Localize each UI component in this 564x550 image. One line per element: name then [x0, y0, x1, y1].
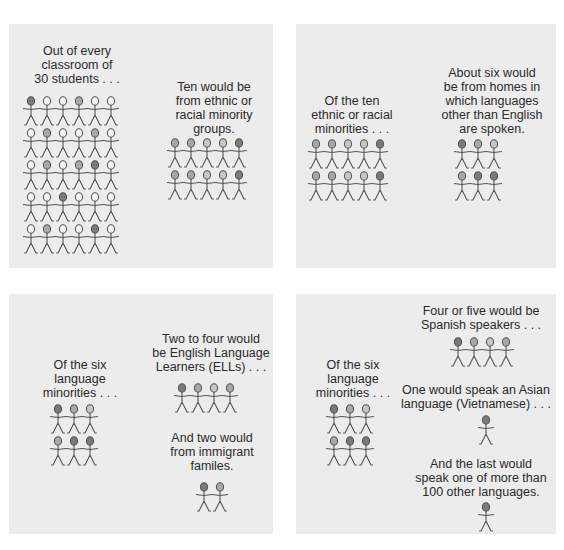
stick-figure-icon: [167, 170, 183, 201]
stick-figure-icon: [66, 404, 82, 435]
stick-figure-icon: [183, 138, 199, 169]
figure-group-30-students: [23, 96, 119, 255]
figure-group-6-language: [454, 139, 502, 202]
stick-figure-icon: [103, 128, 119, 159]
stick-figure-icon: [82, 404, 98, 435]
stick-figure-icon: [450, 337, 466, 368]
stick-figure-icon: [50, 404, 66, 435]
stick-figure-icon: [71, 160, 87, 191]
stick-figure-icon: [55, 96, 71, 127]
stick-figure-icon: [23, 160, 39, 191]
caption-asian-language: One would speak an Asian language (Vietn…: [396, 383, 556, 411]
stick-figure-icon: [87, 192, 103, 223]
stick-figure-icon: [23, 192, 39, 223]
caption-ten-minorities: Ten would be from ethnic or racial minor…: [159, 80, 269, 136]
stick-figure-icon: [39, 96, 55, 127]
stick-figure-icon: [23, 128, 39, 159]
stick-figure-icon: [356, 171, 372, 202]
figure-group-spanish: [450, 337, 514, 368]
stick-figure-icon: [478, 415, 494, 446]
caption-six-language-minorities: Of the six language minorities . . .: [308, 358, 398, 400]
caption-ten-minorities: Of the ten ethnic or racial minorities .…: [300, 94, 404, 136]
figure-group-10-minorities: [167, 138, 247, 201]
stick-figure-icon: [183, 170, 199, 201]
stick-figure-icon: [326, 404, 342, 435]
stick-figure-icon: [103, 224, 119, 255]
caption-ells: Two to four would be English Language Le…: [149, 332, 273, 374]
stick-figure-icon: [340, 139, 356, 170]
stick-figure-icon: [87, 160, 103, 191]
stick-figure-icon: [470, 139, 486, 170]
stick-figure-icon: [199, 138, 215, 169]
figure-group-6-language: [50, 404, 98, 467]
stick-figure-icon: [466, 337, 482, 368]
stick-figure-icon: [454, 171, 470, 202]
stick-figure-icon: [174, 383, 190, 414]
caption-immigrant-families: And two would from immigrant familes.: [157, 431, 267, 473]
stick-figure-icon: [324, 139, 340, 170]
stick-figure-icon: [103, 192, 119, 223]
stick-figure-icon: [87, 96, 103, 127]
stick-figure-icon: [103, 160, 119, 191]
stick-figure-icon: [340, 171, 356, 202]
stick-figure-icon: [71, 96, 87, 127]
figure-group-ells: [174, 383, 238, 414]
figure-group-immigrant: [196, 482, 228, 513]
figure-group-10-minorities: [308, 139, 388, 202]
stick-figure-icon: [324, 171, 340, 202]
stick-figure-icon: [358, 404, 374, 435]
stick-figure-icon: [342, 436, 358, 467]
stick-figure-icon: [372, 171, 388, 202]
stick-figure-icon: [342, 404, 358, 435]
stick-figure-icon: [482, 337, 498, 368]
stick-figure-icon: [71, 192, 87, 223]
caption-other-languages: And the last would speak one of more tha…: [406, 457, 556, 499]
stick-figure-icon: [87, 128, 103, 159]
stick-figure-icon: [486, 139, 502, 170]
figure-group-other: [478, 502, 494, 533]
stick-figure-icon: [372, 139, 388, 170]
stick-figure-icon: [231, 170, 247, 201]
stick-figure-icon: [454, 139, 470, 170]
caption-spanish-speakers: Four or five would be Spanish speakers .…: [406, 304, 556, 332]
stick-figure-icon: [478, 502, 494, 533]
stick-figure-icon: [326, 436, 342, 467]
stick-figure-icon: [103, 96, 119, 127]
stick-figure-icon: [39, 224, 55, 255]
stick-figure-icon: [82, 436, 98, 467]
stick-figure-icon: [23, 224, 39, 255]
stick-figure-icon: [55, 160, 71, 191]
stick-figure-icon: [55, 192, 71, 223]
caption-classroom: Out of every classroom of 30 students . …: [17, 44, 137, 86]
panel-classroom: Out of every classroom of 30 students . …: [9, 24, 273, 268]
stick-figure-icon: [498, 337, 514, 368]
stick-figure-icon: [71, 224, 87, 255]
stick-figure-icon: [55, 128, 71, 159]
stick-figure-icon: [206, 383, 222, 414]
stick-figure-icon: [222, 383, 238, 414]
stick-figure-icon: [308, 171, 324, 202]
stick-figure-icon: [39, 160, 55, 191]
stick-figure-icon: [212, 482, 228, 513]
panel-language-minorities-languages: Of the six language minorities . . . Fou…: [296, 294, 556, 534]
caption-six-language-minorities: Of the six language minorities . . .: [35, 358, 125, 400]
stick-figure-icon: [87, 224, 103, 255]
stick-figure-icon: [358, 436, 374, 467]
stick-figure-icon: [66, 436, 82, 467]
stick-figure-icon: [39, 128, 55, 159]
stick-figure-icon: [308, 139, 324, 170]
figure-group-6-language: [326, 404, 374, 467]
stick-figure-icon: [215, 170, 231, 201]
stick-figure-icon: [39, 192, 55, 223]
panel-language-minorities-ell: Of the six language minorities . . . Two…: [9, 294, 273, 534]
stick-figure-icon: [486, 171, 502, 202]
caption-six-language-homes: About six would be from homes in which l…: [432, 66, 552, 136]
panel-ethnic-minorities: Of the ten ethnic or racial minorities .…: [296, 24, 556, 268]
stick-figure-icon: [199, 170, 215, 201]
stick-figure-icon: [23, 96, 39, 127]
stick-figure-icon: [55, 224, 71, 255]
stick-figure-icon: [231, 138, 247, 169]
stick-figure-icon: [356, 139, 372, 170]
stick-figure-icon: [71, 128, 87, 159]
stick-figure-icon: [167, 138, 183, 169]
